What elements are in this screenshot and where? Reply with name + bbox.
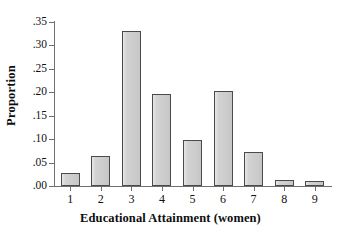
x-axis-tick-mark xyxy=(223,186,224,191)
y-axis-tick-label: .20 xyxy=(7,86,47,98)
x-axis-tick-mark xyxy=(284,186,285,191)
y-axis-tick-label: .25 xyxy=(7,63,47,75)
bar-chart-figure: Proportion .00.05.10.15.20.25.30.35 1234… xyxy=(0,0,341,238)
bar xyxy=(214,91,233,186)
x-axis-tick-label: 8 xyxy=(272,193,296,206)
x-axis-tick-mark xyxy=(70,186,71,191)
x-axis-tick-mark xyxy=(254,186,255,191)
x-axis-tick-label: 9 xyxy=(303,193,327,206)
bar xyxy=(61,173,80,186)
y-axis-tick-label: .30 xyxy=(7,39,47,51)
y-axis-tick-label: .15 xyxy=(7,110,47,122)
x-axis-tick-mark xyxy=(162,186,163,191)
y-axis-tick-label: .05 xyxy=(7,157,47,169)
x-axis-tick-label: 7 xyxy=(242,193,266,206)
x-axis-tick-mark xyxy=(101,186,102,191)
x-axis-tick-mark xyxy=(131,186,132,191)
x-axis-tick-label: 2 xyxy=(89,193,113,206)
y-axis-tick-label: .00 xyxy=(7,180,47,192)
x-axis-tick-mark xyxy=(193,186,194,191)
plot-area xyxy=(55,22,330,186)
bar xyxy=(244,152,263,186)
x-axis-title: Educational Attainment (women) xyxy=(0,211,341,226)
y-axis-tick-label: .10 xyxy=(7,133,47,145)
x-axis-tick-label: 3 xyxy=(119,193,143,206)
bar xyxy=(122,31,141,186)
y-axis-tick-mark xyxy=(49,186,55,187)
x-axis-tick-label: 6 xyxy=(211,193,235,206)
x-axis-tick-label: 1 xyxy=(58,193,82,206)
x-axis-tick-label: 5 xyxy=(181,193,205,206)
y-axis-tick-label: .35 xyxy=(7,16,47,28)
x-axis-tick-mark xyxy=(315,186,316,191)
bar xyxy=(275,180,294,186)
bar xyxy=(305,181,324,186)
bar xyxy=(183,140,202,186)
bar xyxy=(152,94,171,186)
bar xyxy=(91,156,110,186)
x-axis-tick-label: 4 xyxy=(150,193,174,206)
